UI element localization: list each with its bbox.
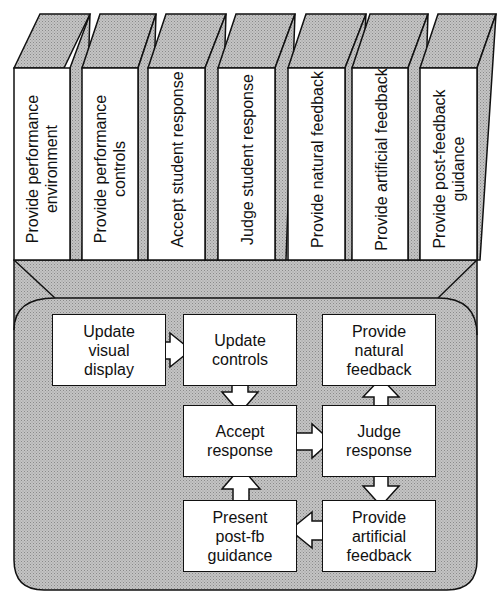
book-label-2: Provide performance controls [91,74,129,264]
box-update-visual-display: Update visual display [52,314,166,386]
book-label-3: Accept student response [168,65,187,255]
book-label-6: Provide artificial feedback [372,65,391,255]
box-present-post-fb-guidance: Present post-fb guidance [183,500,297,572]
box-label: Provide artificial feedback [339,508,419,565]
diagram: Provide performance environment Provide … [0,0,497,604]
box-label: Present post-fb guidance [206,508,274,565]
box-judge-response: Judge response [322,405,436,477]
box-label: Update controls [204,331,276,369]
box-provide-natural-feedback: Provide natural feedback [322,314,436,386]
book-label-7: Provide post-feedback guidance [430,74,468,264]
book-3 [148,14,226,260]
book-label-4: Judge student response [238,65,257,255]
box-accept-response: Accept response [183,405,297,477]
book-label-5: Provide natural feedback [308,65,327,255]
box-provide-artificial-feedback: Provide artificial feedback [322,500,436,572]
box-label: Update visual display [75,322,143,379]
book-4 [218,14,295,260]
box-label: Judge response [341,422,417,460]
box-label: Provide natural feedback [337,322,421,379]
box-label: Accept response [202,422,278,460]
box-update-controls: Update controls [183,314,297,386]
book-label-1: Provide performance environment [23,74,61,264]
